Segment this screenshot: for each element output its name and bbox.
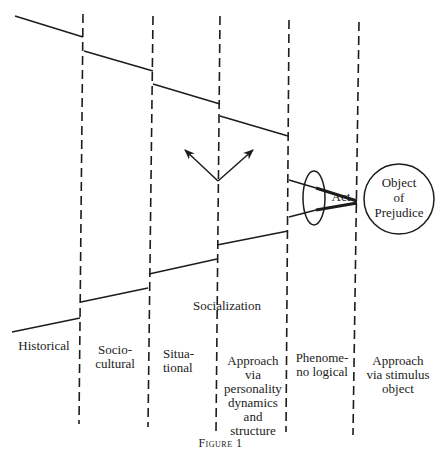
cone-ellipse [303, 171, 325, 225]
cone-bottom-edge [289, 210, 316, 217]
column-label-sociocultural: Socio- cultural [85, 343, 145, 371]
column-label-personality: Approach via personality dynamics and st… [218, 354, 288, 438]
top-boundary-segment [220, 116, 288, 136]
arrow-icon [218, 150, 253, 181]
column-label-phenomenological: Phenome- no logical [289, 351, 355, 379]
arrow-icon [185, 150, 218, 181]
column-label-situational: Situa- tional [155, 347, 219, 375]
bottom-boundary-segment [81, 288, 148, 302]
bottom-boundary-segment [217, 231, 288, 245]
cone-bottom-edge-bold [316, 203, 357, 210]
socialization-label: Socialization [182, 299, 272, 313]
cone-top-edge [289, 180, 316, 188]
act-label: Act [326, 190, 356, 204]
column-label-historical: Historical [14, 339, 74, 353]
object-of-prejudice-label: Object of Prejudice [366, 175, 432, 220]
bottom-boundary-segment [149, 259, 217, 274]
figure-caption: Figure 1 [0, 436, 441, 451]
divider-line-2 [148, 16, 153, 427]
top-boundary-segment [153, 84, 220, 104]
top-boundary-segment [84, 51, 153, 71]
top-boundary-segment [15, 16, 83, 37]
divider-line-1 [79, 14, 83, 424]
column-label-stimulus-object: Approach via stimulus object [356, 354, 440, 396]
bottom-boundary-segment [12, 318, 80, 332]
